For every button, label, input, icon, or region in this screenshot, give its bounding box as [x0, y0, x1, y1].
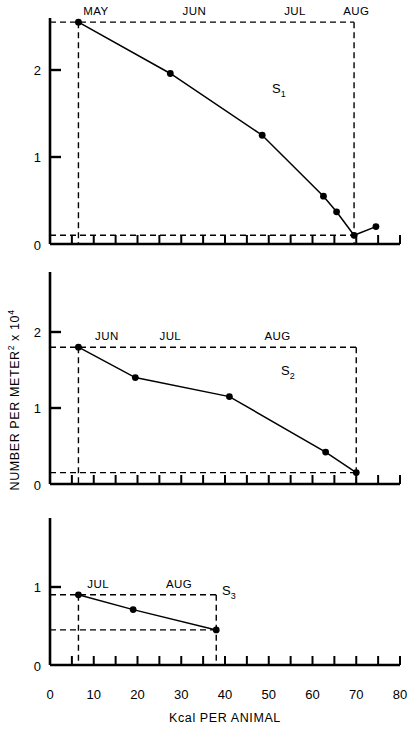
month-label-S2-JUL: JUL	[159, 330, 181, 342]
y-zero-label-S3: 0	[34, 659, 41, 674]
y-zero-label-S1: 0	[34, 238, 41, 253]
x-tick-label-30: 30	[174, 687, 188, 702]
data-point-S2-2	[226, 393, 233, 400]
data-point-S1-6	[373, 223, 380, 230]
data-point-S2-3	[322, 449, 329, 456]
y-tick-label-S1-1: 1	[34, 150, 41, 165]
series-label-sub-S3: 3	[231, 591, 236, 601]
y-tick-label-S2-1: 1	[34, 401, 41, 416]
series-label-S1: S1	[272, 81, 286, 99]
data-line-S3	[78, 595, 216, 630]
x-tick-label-60: 60	[305, 687, 319, 702]
y-tick-label-S3-1: 1	[34, 580, 41, 595]
data-point-S2-0	[75, 344, 82, 351]
data-point-S2-1	[132, 374, 139, 381]
y-axis-title-times-ten: x 10	[8, 315, 22, 345]
y-axis-title-exponent-4: 4	[6, 310, 16, 315]
figure-root: 120MAYJUNJULAUGS1120JUNJULAUGS210JULAUGS…	[0, 0, 419, 730]
x-tick-label-80: 80	[393, 687, 407, 702]
y-tick-label-S2-2: 2	[34, 325, 41, 340]
data-line-S1	[78, 22, 376, 235]
data-point-S1-4	[333, 208, 340, 215]
series-label-S2: S2	[281, 363, 295, 381]
data-point-S3-1	[130, 606, 137, 613]
y-tick-label-S1-2: 2	[34, 63, 41, 78]
panel-S1: 120MAYJUNJULAUGS1	[34, 5, 400, 253]
data-point-S3-2	[213, 627, 220, 634]
figure-svg: 120MAYJUNJULAUGS1120JUNJULAUGS210JULAUGS…	[0, 0, 419, 730]
data-point-S1-0	[75, 19, 82, 26]
month-label-S1-JUN: JUN	[183, 5, 207, 17]
panel-S2: 120JUNJULAUGS2	[34, 272, 400, 493]
x-axis-title: Kcal PER ANIMAL	[169, 711, 281, 725]
month-label-S1-AUG: AUG	[343, 5, 369, 17]
data-point-S3-0	[75, 591, 82, 598]
month-label-S1-JUL: JUL	[284, 5, 306, 17]
x-tick-label-50: 50	[262, 687, 276, 702]
series-label-S3: S3	[222, 583, 236, 601]
data-line-S2	[78, 347, 356, 472]
month-label-S2-AUG: AUG	[264, 330, 290, 342]
month-label-S3-AUG: AUG	[166, 578, 192, 590]
month-label-S2-JUN: JUN	[95, 330, 119, 342]
y-zero-label-S2: 0	[34, 478, 41, 493]
data-point-S1-1	[167, 70, 174, 77]
month-label-S3-JUL: JUL	[87, 578, 109, 590]
x-tick-label-10: 10	[87, 687, 101, 702]
x-tick-label-20: 20	[130, 687, 144, 702]
x-tick-label-70: 70	[349, 687, 363, 702]
month-label-S1-MAY: MAY	[83, 5, 108, 17]
data-point-S2-4	[353, 469, 360, 476]
data-point-S1-5	[351, 232, 358, 239]
data-point-S1-2	[259, 132, 266, 139]
series-label-sub-S1: 1	[281, 89, 286, 99]
y-axis-title: NUMBER PER METER2 x 104	[6, 310, 22, 491]
x-tick-label-40: 40	[218, 687, 232, 702]
panel-S3: 10JULAUGS3	[34, 518, 400, 674]
data-point-S1-3	[320, 193, 327, 200]
x-tick-label-0: 0	[46, 687, 53, 702]
x-axis-labels: 01020304050607080	[46, 687, 407, 702]
series-label-sub-S2: 2	[290, 371, 295, 381]
